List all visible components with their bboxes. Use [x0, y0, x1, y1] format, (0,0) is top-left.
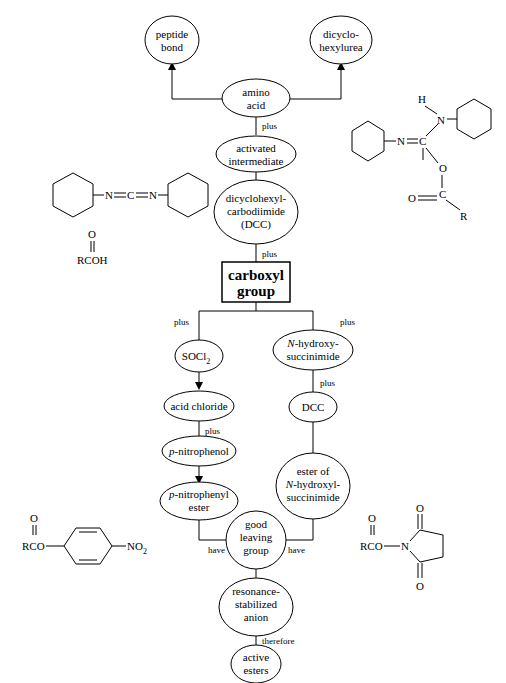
svg-text:N-hydroxy-: N-hydroxy-	[286, 337, 339, 349]
node-acid-chloride: acid chloride	[164, 391, 234, 421]
svg-text:good: good	[245, 518, 268, 530]
svg-text:dicyclohexyl-: dicyclohexyl-	[226, 192, 287, 204]
svg-text:N: N	[397, 135, 405, 147]
svg-text:O: O	[30, 512, 38, 524]
svg-text:active: active	[243, 651, 269, 663]
node-p-nitrophenyl-ester: p-nitrophenyl ester	[160, 482, 238, 520]
svg-text:p-nitrophenol: p-nitrophenol	[168, 445, 229, 457]
edge-label-plus: plus	[205, 426, 221, 436]
intermediate-structure: N C N H O C O R	[352, 93, 491, 222]
svg-text:dicyclo-: dicyclo-	[323, 28, 359, 40]
nhs-ester-structure: O RCO N O O	[360, 502, 443, 592]
svg-text:anion: anion	[244, 611, 269, 623]
svg-text:O: O	[416, 580, 424, 592]
svg-text:p-nitrophenyl: p-nitrophenyl	[168, 488, 229, 500]
svg-text:H: H	[418, 93, 426, 105]
svg-text:C: C	[127, 189, 134, 201]
svg-text:leaving: leaving	[240, 531, 273, 543]
node-good-leaving-group: good leaving group	[226, 511, 286, 569]
svg-text:succinimide: succinimide	[286, 491, 339, 503]
edge-label-plus: plus	[320, 378, 336, 388]
carboxylic-acid-structure: O RCOH	[77, 228, 108, 266]
svg-text:group: group	[243, 544, 269, 556]
svg-text:N: N	[401, 540, 409, 552]
svg-text:bond: bond	[161, 41, 184, 53]
svg-text:O: O	[408, 192, 416, 204]
node-socl2: SOCl2	[175, 340, 223, 372]
svg-text:RCO: RCO	[22, 540, 45, 552]
edge-label-plus: plus	[340, 317, 356, 327]
svg-text:intermediate: intermediate	[229, 155, 284, 167]
svg-text:carboxyl: carboxyl	[228, 267, 284, 283]
node-resonance-stabilized-anion: resonance- stabilized anion	[219, 578, 293, 636]
svg-text:succinimide: succinimide	[286, 350, 339, 362]
node-amino-acid: amino acid	[222, 79, 290, 117]
svg-text:ester: ester	[189, 501, 210, 513]
node-active-esters: active esters	[231, 645, 281, 683]
concept-map: peptide bond dicyclo- hexylurea amino ac…	[0, 0, 506, 683]
svg-text:RCOH: RCOH	[77, 254, 108, 266]
node-ester-nhs: ester of N-hydroxyl- succinimide	[276, 453, 350, 519]
svg-text:C: C	[439, 188, 446, 200]
edge-label-plus: plus	[174, 317, 190, 327]
edge-label-have: have	[208, 545, 225, 555]
svg-text:acid: acid	[247, 99, 266, 111]
svg-text:carbodiimide: carbodiimide	[227, 205, 285, 217]
svg-text:O: O	[439, 162, 447, 174]
dcc-structure: N C N	[53, 173, 208, 217]
svg-text:ester of: ester of	[297, 465, 330, 477]
svg-text:N-hydroxyl-: N-hydroxyl-	[285, 478, 341, 490]
edge-label-plus: plus	[262, 249, 278, 259]
svg-text:esters: esters	[243, 664, 268, 676]
svg-text:N: N	[149, 189, 157, 201]
edge-label-plus: plus	[262, 121, 278, 131]
node-carboxyl-group: carboxyl group	[222, 262, 290, 302]
p-nitrophenyl-ester-structure: O RCO NO2	[22, 512, 147, 564]
svg-text:C: C	[419, 135, 426, 147]
edge-label-therefore: therefore	[262, 636, 294, 646]
svg-text:O: O	[368, 512, 376, 524]
svg-text:(DCC): (DCC)	[241, 218, 271, 231]
svg-text:R: R	[460, 210, 468, 222]
svg-text:group: group	[237, 283, 275, 299]
node-activated-intermediate: activated intermediate	[216, 136, 296, 172]
node-n-hydroxysuccinimide: N-hydroxy- succinimide	[273, 330, 353, 370]
svg-text:RCO: RCO	[360, 540, 383, 552]
node-dcc: dicyclohexyl- carbodiimide (DCC)	[214, 180, 298, 244]
svg-text:O: O	[88, 228, 96, 240]
svg-text:hexylurea: hexylurea	[319, 41, 362, 53]
svg-text:NO2: NO2	[127, 540, 147, 556]
node-p-nitrophenol: p-nitrophenol	[162, 436, 236, 466]
svg-text:N: N	[105, 189, 113, 201]
svg-text:acid chloride: acid chloride	[170, 400, 227, 412]
svg-text:resonance-: resonance-	[232, 585, 280, 597]
node-dicyclohexylurea: dicyclo- hexylurea	[310, 16, 372, 64]
svg-text:amino: amino	[242, 86, 270, 98]
svg-text:DCC: DCC	[302, 401, 325, 413]
node-dcc-2: DCC	[289, 392, 337, 422]
svg-text:O: O	[416, 502, 424, 514]
svg-text:stabilized: stabilized	[235, 598, 278, 610]
svg-text:N: N	[437, 114, 445, 126]
svg-text:peptide: peptide	[156, 28, 188, 40]
edge-label-have: have	[288, 545, 305, 555]
node-peptide-bond: peptide bond	[145, 16, 199, 64]
svg-text:activated: activated	[236, 142, 276, 154]
